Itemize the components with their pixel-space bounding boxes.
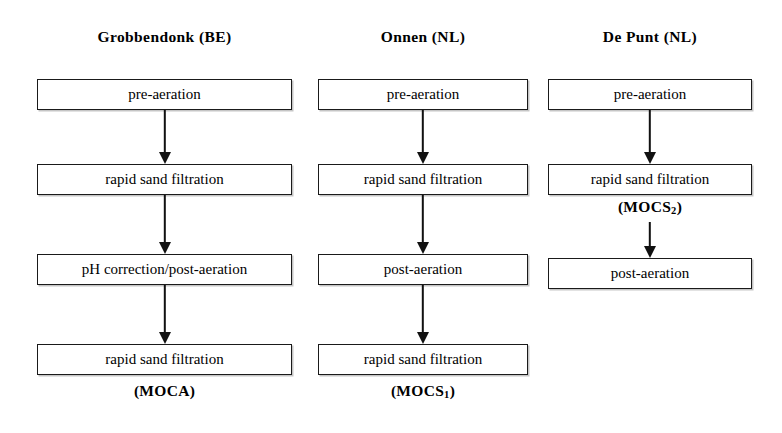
arrow-de-punt-1-to-2 — [637, 110, 663, 164]
process-box-grobbendonk-step-3: pH correction/post-aeration — [37, 254, 292, 285]
process-box-grobbendonk-step-4: rapid sand filtration — [37, 344, 292, 375]
process-box-onnen-step-4: rapid sand filtration — [318, 344, 528, 375]
process-box-de-punt-step-3: post-aeration — [548, 258, 752, 289]
code-label-text: (MOCS — [618, 198, 671, 215]
process-box-onnen-step-1: pre-aeration — [318, 79, 528, 110]
process-box-de-punt-step-2: rapid sand filtration — [548, 164, 752, 195]
process-flow-diagram: Grobbendonk (BE) pre-aeration rapid sand… — [0, 0, 782, 433]
code-label-moca: (MOCA) — [37, 382, 292, 400]
arrow-shaft — [164, 285, 166, 332]
process-box-onnen-step-2: rapid sand filtration — [318, 164, 528, 195]
arrow-shaft — [422, 110, 424, 152]
arrow-grobbendonk-2-to-3 — [152, 195, 178, 254]
process-box-de-punt-step-1: pre-aeration — [548, 79, 752, 110]
arrow-shaft — [649, 110, 651, 152]
arrow-head — [159, 152, 171, 164]
process-box-grobbendonk-step-2: rapid sand filtration — [37, 164, 292, 195]
arrow-de-punt-2-to-3 — [637, 222, 663, 258]
arrow-head — [159, 332, 171, 344]
code-label-text: (MOCA) — [134, 382, 195, 399]
arrow-shaft — [422, 285, 424, 332]
arrow-shaft — [649, 222, 651, 247]
process-box-grobbendonk-step-1: pre-aeration — [37, 79, 292, 110]
code-label-subscript: 1 — [444, 389, 450, 400]
arrow-head — [644, 152, 656, 164]
arrow-grobbendonk-3-to-4 — [152, 285, 178, 344]
arrow-shaft — [164, 195, 166, 242]
arrow-grobbendonk-1-to-2 — [152, 110, 178, 164]
arrow-head — [417, 242, 429, 254]
code-label-mocs1: (MOCS1) — [318, 382, 528, 400]
arrow-onnen-3-to-4 — [410, 285, 436, 344]
code-label-subscript: 2 — [671, 205, 677, 216]
arrow-head — [417, 152, 429, 164]
column-header-de-punt: De Punt (NL) — [548, 28, 752, 46]
code-label-mocs2: (MOCS2) — [548, 198, 752, 216]
code-label-suffix: ) — [450, 382, 455, 399]
arrow-head — [159, 242, 171, 254]
arrow-onnen-1-to-2 — [410, 110, 436, 164]
code-label-suffix: ) — [677, 198, 682, 215]
column-header-grobbendonk: Grobbendonk (BE) — [37, 28, 292, 46]
arrow-shaft — [422, 195, 424, 242]
process-box-onnen-step-3: post-aeration — [318, 254, 528, 285]
arrow-shaft — [164, 110, 166, 152]
arrow-head — [417, 332, 429, 344]
arrow-head — [644, 246, 656, 258]
arrow-onnen-2-to-3 — [410, 195, 436, 254]
code-label-text: (MOCS — [391, 382, 444, 399]
column-header-onnen: Onnen (NL) — [318, 28, 528, 46]
